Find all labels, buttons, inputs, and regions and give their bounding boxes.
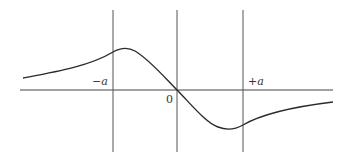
label-minus-a: −a (92, 75, 108, 88)
function-curve (23, 48, 333, 129)
label-plus-a: +a (248, 75, 264, 88)
label-origin: 0 (166, 93, 173, 106)
diagram-canvas: −a 0 +a (0, 0, 349, 159)
